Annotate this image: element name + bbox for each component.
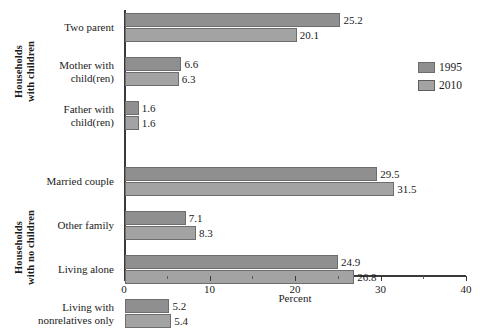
x-axis-title: Percent <box>279 292 312 304</box>
x-tick-major <box>466 276 467 281</box>
x-tick-label: 40 <box>451 283 481 295</box>
category-label-line-2: child(ren) <box>71 116 114 128</box>
bar-value-label: 20.1 <box>300 30 319 41</box>
x-tick-minor <box>167 276 168 279</box>
x-tick-major <box>295 276 296 281</box>
category-label-living-alone: Living alone <box>0 255 119 284</box>
category-label-two-parent: Two parent <box>0 13 119 42</box>
bar-2010-living-with-nonrelatives-only <box>125 314 171 328</box>
bar-value-label: 1.6 <box>142 103 156 114</box>
x-tick-major <box>210 276 211 281</box>
legend-item-2010[interactable]: 2010 <box>418 77 462 93</box>
category-label-married-couple: Married couple <box>0 167 119 196</box>
bar-value-label: 6.6 <box>184 59 198 70</box>
x-tick-label: 10 <box>195 283 225 295</box>
x-tick-minor <box>423 276 424 279</box>
bar-1995-living-with-nonrelatives-only <box>125 299 169 313</box>
bar-1995-two-parent <box>125 13 340 27</box>
x-tick-label: 0 <box>109 283 139 295</box>
category-label-line-1: Father with <box>64 103 114 115</box>
bar-1995-other-family <box>125 211 186 225</box>
category-label-line-1: Mother with <box>59 59 114 71</box>
category-label-line-2: nonrelatives only <box>38 314 114 326</box>
legend-swatch-2010 <box>418 80 435 91</box>
bar-value-label: 7.1 <box>189 213 203 224</box>
category-label-line-1: Married couple <box>47 175 115 187</box>
bar-2010-two-parent <box>125 28 297 42</box>
legend-label-2010: 2010 <box>439 79 462 91</box>
x-tick-minor <box>252 276 253 279</box>
x-tick-minor <box>338 276 339 279</box>
category-label-living-with-nonrelatives-only: Living with nonrelatives only <box>0 299 119 328</box>
bar-1995-mother-with-child-ren <box>125 57 181 71</box>
x-tick-major <box>124 276 125 281</box>
bar-2010-married-couple <box>125 182 394 196</box>
bar-1995-father-with-child-ren <box>125 101 139 115</box>
bar-value-label: 1.6 <box>142 118 156 129</box>
category-label-line-1: Living alone <box>58 263 114 275</box>
bar-2010-other-family <box>125 226 196 240</box>
bar-2010-father-with-child-ren <box>125 116 139 130</box>
bar-value-label: 24.9 <box>341 257 360 268</box>
bar-1995-living-alone <box>125 255 338 269</box>
category-label-line-1: Living with <box>62 301 114 313</box>
bar-value-label: 5.2 <box>172 301 186 312</box>
bar-value-label: 8.3 <box>199 228 213 239</box>
plot-area: 25.220.16.66.31.61.629.531.57.18.324.926… <box>124 10 466 275</box>
legend-swatch-1995 <box>418 62 435 73</box>
category-label-father-with-children: Father with child(ren) <box>0 101 119 130</box>
x-tick-major <box>381 276 382 281</box>
category-label-other-family: Other family <box>0 211 119 240</box>
bar-value-label: 26.8 <box>357 272 376 283</box>
category-label-mother-with-children: Mother with child(ren) <box>0 57 119 86</box>
bar-value-label: 5.4 <box>174 316 188 327</box>
legend: 1995 2010 <box>418 59 462 95</box>
bar-value-label: 29.5 <box>380 169 399 180</box>
category-label-line-1: Two parent <box>64 21 114 33</box>
legend-item-1995[interactable]: 1995 <box>418 59 462 75</box>
x-tick-label: 30 <box>366 283 396 295</box>
legend-label-1995: 1995 <box>439 61 462 73</box>
bar-value-label: 31.5 <box>397 184 416 195</box>
category-label-line-1: Other family <box>57 219 114 231</box>
category-label-line-2: child(ren) <box>71 72 114 84</box>
bar-value-label: 25.2 <box>343 15 362 26</box>
bar-2010-living-alone <box>125 270 354 284</box>
bar-1995-married-couple <box>125 167 377 181</box>
bar-value-label: 6.3 <box>182 74 196 85</box>
bar-2010-mother-with-child-ren <box>125 72 179 86</box>
